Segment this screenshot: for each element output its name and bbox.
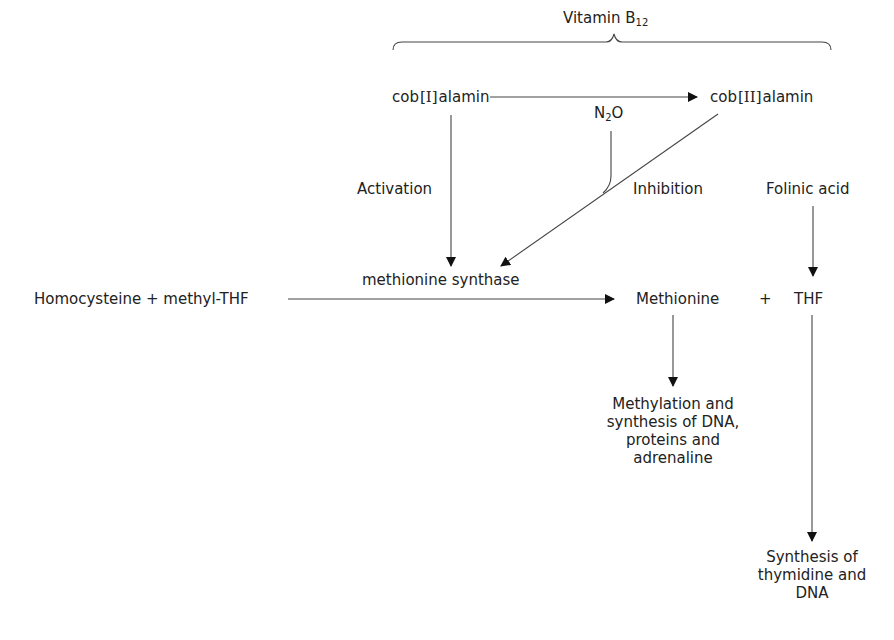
cob-i-suffix: alamin [439,88,490,106]
thymidine-output-node: Synthesis of thymidine and DNA [754,548,870,602]
n2o-n: N [594,104,605,122]
n2o-o: O [612,104,624,122]
n2o-connector [603,131,611,193]
cob-i-alamin-node: cob[I]alamin [392,88,489,106]
methylation-output-node: Methylation and synthesis of DNA, protei… [598,395,748,467]
cob-ii-roman: [II] [738,88,762,106]
methionine-node: Methionine [636,290,719,308]
vitamin-b12-label: Vitamin B12 [563,9,648,27]
plus-sign: + [759,290,772,308]
inhibition-label: Inhibition [633,180,703,198]
vitamin-subscript: 12 [636,17,649,28]
folinic-acid-node: Folinic acid [766,180,849,198]
cob-ii-prefix: cob [710,88,737,106]
vitamin-text: Vitamin B [563,9,636,27]
methionine-synthase-label: methionine synthase [362,271,520,289]
activation-label: Activation [357,180,432,198]
cob-i-roman: [I] [420,88,438,106]
vitamin-b12-brace [393,34,831,50]
cob-i-prefix: cob [392,88,419,106]
n2o-node: N2O [594,104,623,122]
cob-ii-alamin-node: cob[II]alamin [710,88,813,106]
cob-ii-suffix: alamin [763,88,814,106]
thf-node: THF [794,290,823,308]
substrates-node: Homocysteine + methyl-THF [34,290,249,308]
